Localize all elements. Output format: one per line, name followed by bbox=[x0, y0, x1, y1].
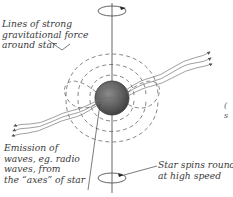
fragment-line-2: s bbox=[224, 111, 228, 121]
spin-label: Star spins round at high speed bbox=[158, 160, 233, 181]
star bbox=[95, 81, 129, 115]
spin-label-line-1: Star spins round bbox=[158, 160, 233, 171]
emission-beam-lower-left bbox=[12, 100, 98, 136]
gravity-label: Lines of strong gravitational force arou… bbox=[2, 19, 88, 51]
emission-label-line-1: Emission of bbox=[4, 143, 85, 154]
fragment-line-1: ( bbox=[224, 101, 228, 111]
gravity-label-line-1: Lines of strong bbox=[2, 19, 88, 30]
emission-label: Emission of waves, eg. radio waves, from… bbox=[4, 143, 85, 185]
emission-label-line-4: the “axes” of star bbox=[4, 175, 85, 186]
cropped-text-fragment: ( s bbox=[224, 101, 228, 121]
emission-beam-upper-right bbox=[126, 52, 212, 96]
gravity-label-line-3: around star bbox=[2, 40, 88, 51]
spin-label-line-2: at high speed bbox=[158, 171, 233, 182]
